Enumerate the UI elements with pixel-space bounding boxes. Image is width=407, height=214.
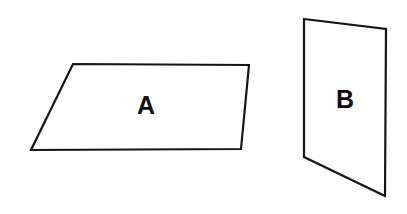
shape-a-label: A	[137, 91, 155, 119]
figure-canvas: Two quadrilateral shapes labelled A and …	[0, 0, 407, 214]
shapes-figure: Two quadrilateral shapes labelled A and …	[0, 0, 407, 214]
shape-b-label: B	[336, 85, 354, 113]
